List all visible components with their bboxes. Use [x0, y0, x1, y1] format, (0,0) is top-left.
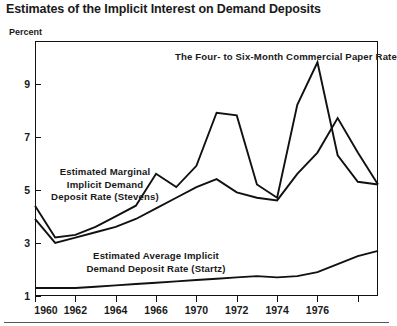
- annotation-startz-line2: Demand Deposit Rate (Startz): [86, 263, 225, 275]
- annotation-commercial-paper: The Four- to Six-Month Commercial Paper …: [175, 51, 397, 63]
- annotation-stevens-line1: Estimated Marginal: [60, 166, 151, 178]
- annotation-stevens-line3: Deposit Rate (Stevens): [51, 191, 159, 203]
- line-commercial-paper-rate: [35, 62, 378, 237]
- footer-divider: [4, 322, 389, 323]
- annotation-stevens-line2: Implicit Demand: [67, 179, 143, 191]
- annotation-startz-line1: Estimated Average Implicit: [93, 250, 219, 262]
